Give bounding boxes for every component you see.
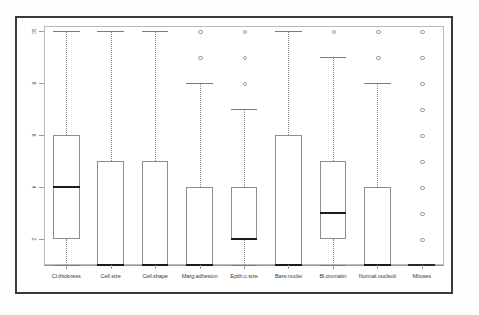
x-tick-label-mitoses: Mitoses	[412, 273, 431, 279]
x-tick-label-bl-cromatin: Bl.cromatin	[319, 273, 346, 279]
x-tick-mark	[333, 265, 334, 269]
outlier-point	[420, 186, 425, 191]
outlier-point	[420, 82, 425, 87]
x-tick-mark	[244, 265, 245, 269]
outlier-point	[420, 212, 425, 217]
x-tick-mark	[288, 265, 289, 269]
x-tick-label-cell-size: Cell.size	[101, 273, 121, 279]
x-tick-mark	[422, 265, 423, 269]
outlier-point	[420, 30, 425, 35]
outlier-point	[420, 108, 425, 113]
x-tick-label-marg-adhesion: Marg.adhesion	[182, 273, 218, 279]
outlier-point	[420, 56, 425, 61]
boxplot-mitoses	[0, 26, 479, 265]
x-tick-mark	[111, 265, 112, 269]
x-tick-label-epith-c-size: Epith.c.size	[230, 273, 257, 279]
x-tick-mark	[66, 265, 67, 269]
x-tick-label-cl-thickness: Cl.thickness	[52, 273, 81, 279]
boxplot-figure: 246810 Cl.thicknessCell.sizeCell.shapeMa…	[0, 0, 479, 315]
outlier-point	[420, 238, 425, 243]
outlier-point	[420, 134, 425, 139]
x-tick-label-normal-nucleoli: Normal.nucleoli	[359, 273, 396, 279]
x-tick-mark	[155, 265, 156, 269]
x-tick-mark	[377, 265, 378, 269]
outlier-point	[420, 160, 425, 165]
x-tick-label-cell-shape: Cell.shape	[142, 273, 167, 279]
x-tick-label-bare-nuclei: Bare.nuclei	[275, 273, 302, 279]
x-tick-mark	[200, 265, 201, 269]
